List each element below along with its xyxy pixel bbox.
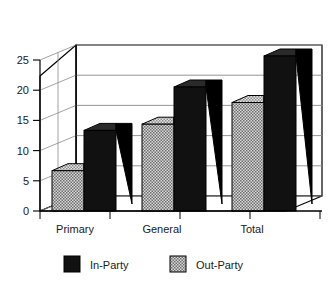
chart-container: 0 5 10 15 20 25: [0, 0, 332, 282]
legend-label-out-party: Out-Party: [196, 259, 244, 271]
y-tick-label-5: 5: [23, 175, 29, 187]
x-tick-label-total: Total: [240, 223, 263, 235]
y-tick-label-10: 10: [17, 145, 29, 157]
bar-chart-3d: 0 5 10 15 20 25: [0, 0, 332, 282]
x-tick-label-general: General: [142, 223, 181, 235]
legend-item-in-party: In-Party: [64, 256, 129, 272]
y-tick-label-0: 0: [23, 205, 29, 217]
legend-swatch-in-party: [64, 256, 80, 272]
y-tick-label-20: 20: [17, 84, 29, 96]
legend-item-out-party: Out-Party: [170, 256, 244, 272]
x-axis: Primary General Total: [40, 211, 322, 235]
y-axis: 0 5 10 15 20 25: [17, 54, 40, 217]
legend-swatch-out-party: [170, 256, 186, 272]
y-tick-label-25: 25: [17, 54, 29, 66]
y-tick-label-15: 15: [17, 114, 29, 126]
legend-label-in-party: In-Party: [90, 259, 129, 271]
chart-legend: In-Party Out-Party: [64, 256, 244, 272]
x-tick-label-primary: Primary: [56, 223, 94, 235]
